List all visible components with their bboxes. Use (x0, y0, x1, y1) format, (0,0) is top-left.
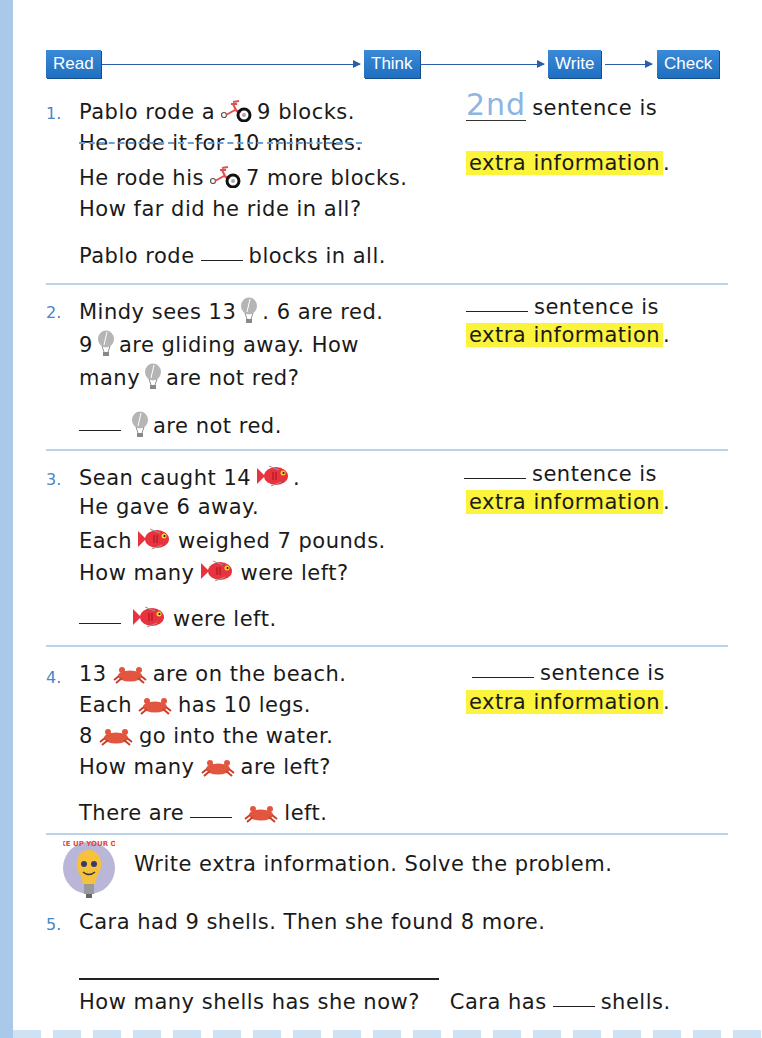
text: many (79, 366, 140, 390)
write-extra-information-line[interactable] (79, 978, 439, 980)
text: . (663, 323, 670, 347)
text: 8 (79, 724, 93, 748)
page-margin-strip (0, 0, 13, 1038)
crab-icon (97, 728, 135, 746)
text: shells. (601, 990, 671, 1014)
text: has 10 legs. (178, 693, 311, 717)
answer-blank[interactable] (190, 816, 232, 818)
answer-blank[interactable] (466, 310, 528, 312)
answer-line: There areleft. (79, 801, 327, 825)
extra-info-statement: sentence is (466, 295, 659, 319)
text: . (663, 690, 670, 714)
highlight-extra-information: extra information (466, 151, 663, 175)
text: . (293, 466, 300, 490)
crab-icon (199, 759, 237, 777)
fish-icon (255, 464, 293, 488)
step-read: Read (46, 50, 101, 78)
arrow-icon (420, 64, 544, 65)
text: are left? (241, 755, 331, 779)
text: are not red. (153, 414, 282, 438)
answer-blank[interactable] (553, 1005, 595, 1007)
extra-info-label: extra information. (466, 323, 670, 347)
text: He rode his (79, 166, 204, 190)
make-up-your-own-badge-icon: MAKE UP YOUR OWN (63, 838, 115, 912)
problem-question: How manyare left? (79, 755, 331, 779)
separator (46, 283, 728, 285)
balloon-icon (144, 363, 162, 391)
instruction: Write extra information. Solve the probl… (134, 852, 612, 876)
problem-line: 8go into the water. (79, 724, 333, 748)
separator (46, 645, 728, 647)
fish-icon (136, 527, 174, 551)
step-check: Check (657, 50, 719, 78)
answer-blank[interactable] (472, 676, 534, 678)
fish-icon (131, 605, 169, 629)
text: 13 (79, 662, 107, 686)
bicycle-icon (219, 98, 253, 122)
struck-extra-sentence: He rode it for 10 minutes. (79, 131, 363, 155)
answer-blank[interactable] (79, 429, 121, 431)
crab-icon (111, 666, 149, 684)
extra-info-statement: sentence is (472, 661, 665, 685)
text: 9 blocks. (257, 100, 355, 124)
extra-info-statement: sentence is (464, 462, 657, 486)
text: weighed 7 pounds. (178, 529, 386, 553)
text: . 6 are red. (262, 300, 383, 324)
problem-line: Sean caught 14. (79, 464, 300, 490)
problem-line: Pablo rode a9 blocks. (79, 98, 355, 124)
extra-info-label: extra information. (466, 151, 670, 175)
answer-blank[interactable] (79, 622, 121, 624)
bottom-border (13, 1030, 762, 1038)
text: How many (79, 561, 195, 585)
highlight-extra-information: extra information (466, 490, 663, 514)
balloon-icon (131, 411, 149, 439)
fish-icon (199, 559, 237, 583)
problem-number: 3. (46, 470, 61, 489)
text: sentence is (540, 661, 665, 685)
text: are on the beach. (153, 662, 347, 686)
problem-line: Eachweighed 7 pounds. (79, 527, 386, 553)
text: blocks in all. (249, 244, 386, 268)
separator (46, 449, 728, 451)
text: were left? (241, 561, 349, 585)
arrow-icon (605, 64, 652, 65)
answer-blank-filled[interactable]: 2nd (466, 90, 526, 121)
problem-line: He gave 6 away. (79, 495, 259, 519)
problem-number: 5. (46, 915, 61, 934)
text: sentence is (532, 462, 657, 486)
text: sentence is (534, 295, 659, 319)
problem-question: How manywere left? (79, 559, 349, 585)
text: Mindy sees 13 (79, 300, 236, 324)
text: Pablo rode a (79, 100, 215, 124)
text: Each (79, 529, 132, 553)
extra-info-label: extra information. (466, 490, 670, 514)
crab-icon (242, 805, 280, 823)
problem-solving-flow: Read Think Write Check (46, 50, 726, 80)
problem-3: 3. Sean caught 14. He gave 6 away. Eachw… (46, 460, 728, 640)
extra-info-statement: 2ndsentence is (466, 90, 657, 121)
problem-line: He rode his7 more blocks. (79, 164, 407, 190)
badge-text: MAKE UP YOUR OWN (63, 840, 115, 848)
text: were left. (173, 607, 277, 631)
answer-blank[interactable] (464, 477, 526, 479)
extra-info-label: extra information. (466, 690, 670, 714)
crab-icon (136, 697, 174, 715)
text: sentence is (532, 96, 657, 120)
problem-5-question-line: How many shells has she now?Cara hasshel… (79, 990, 671, 1014)
text: Pablo rode (79, 244, 195, 268)
balloon-icon (240, 297, 258, 325)
problem-4: 4. 13are on the beach. Eachhas 10 legs. … (46, 658, 728, 838)
arrow-icon (102, 64, 360, 65)
text: left. (284, 801, 327, 825)
problem-number: 2. (46, 303, 61, 322)
problem-number: 1. (46, 104, 61, 123)
answer-line: are not red. (79, 411, 282, 439)
problem-2: 2. Mindy sees 13. 6 are red. 9are glidin… (46, 293, 728, 443)
answer-blank[interactable] (201, 259, 243, 261)
text: . (663, 490, 670, 514)
highlight-extra-information: extra information (466, 323, 663, 347)
problem-5-statement: Cara had 9 shells. Then she found 8 more… (79, 910, 545, 934)
text: Each (79, 693, 132, 717)
answer-line: were left. (79, 605, 277, 631)
bicycle-icon (208, 164, 242, 188)
